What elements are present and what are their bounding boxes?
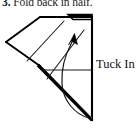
figure-root: 3. Fold back in half. Tuck In xyxy=(0,0,138,132)
next-step-caption-partial xyxy=(2,127,138,132)
tuck-in-label: Tuck In xyxy=(96,57,135,72)
